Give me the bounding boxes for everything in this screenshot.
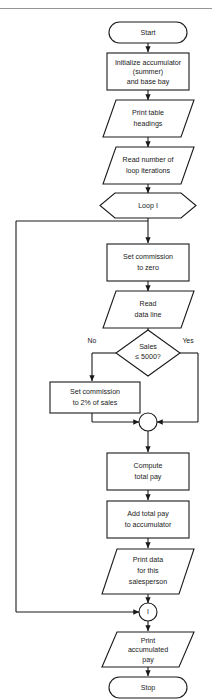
branch-label-no: No [88, 337, 97, 344]
node-loop-connector[interactable]: I [139, 603, 157, 621]
initialize-label-line3: and base bay [127, 78, 170, 86]
read-data-line-io-shape [103, 291, 194, 328]
flowchart-container: Start Initialize accumulator (summer) an… [0, 0, 212, 700]
print-data-label-line1: Print data [133, 556, 163, 564]
node-set-commission-zero[interactable]: Set commission to zero [107, 244, 189, 281]
add-total-pay-process-shape [107, 501, 189, 538]
start-label: Start [141, 29, 156, 37]
node-set-commission-2pct[interactable]: Set commission to 2% of sales [50, 382, 140, 413]
add-total-pay-label-line2: to accumulator [125, 521, 172, 529]
node-initialize[interactable]: Initialize accumulator (summer) and base… [107, 53, 189, 90]
node-print-accumulated[interactable]: Print accumulated pay [102, 632, 194, 667]
print-data-label-line3: salesperson [129, 578, 167, 586]
stop-label: Stop [141, 684, 156, 692]
node-compute-total-pay[interactable]: Compute total pay [107, 453, 189, 490]
loop-i-label: Loop I [138, 202, 158, 210]
set-commission-zero-label-line2: to zero [137, 264, 159, 272]
loop-connector-label: I [147, 608, 149, 616]
print-accumulated-label-line2: accumulated [128, 646, 168, 654]
node-sales-decision[interactable]: Sales ≤ 5000? [116, 330, 180, 376]
node-read-iterations[interactable]: Read number of loop iterations [103, 147, 194, 184]
read-iterations-io-shape [103, 147, 194, 184]
set-commission-2pct-process-shape [50, 382, 140, 413]
set-commission-zero-label-line1: Set commission [123, 253, 173, 261]
print-headings-label-line1: Print table [132, 109, 164, 117]
compute-total-pay-label-line1: Compute [134, 462, 163, 470]
read-iterations-label-line2: loop iterations [126, 167, 171, 175]
node-add-total-pay[interactable]: Add total pay to accumulator [107, 501, 189, 538]
print-accumulated-label-line3: pay [142, 656, 154, 664]
node-loop-i[interactable]: Loop I [100, 193, 196, 218]
sales-decision-label-line1: Sales [139, 343, 157, 351]
set-commission-zero-process-shape [107, 244, 189, 281]
initialize-label-line1: Initialize accumulator [115, 59, 182, 67]
node-print-data[interactable]: Print data for this salesperson [102, 549, 194, 594]
node-merge-junction[interactable] [139, 413, 157, 431]
initialize-label-line2: (summer) [133, 68, 163, 76]
sales-decision-label-line2: ≤ 5000? [135, 353, 161, 361]
add-total-pay-label-line1: Add total pay [127, 510, 169, 518]
node-start[interactable]: Start [109, 22, 187, 43]
node-stop[interactable]: Stop [109, 677, 187, 698]
set-commission-2pct-label-line2: to 2% of sales [73, 399, 118, 407]
branch-label-yes: Yes [182, 337, 194, 344]
set-commission-2pct-label-line1: Set commission [70, 388, 120, 396]
print-headings-label-line2: headings [134, 120, 163, 128]
node-read-data-line[interactable]: Read data line [103, 291, 194, 328]
print-headings-io-shape [103, 100, 194, 137]
read-data-line-label-line1: Read [140, 300, 157, 308]
flowchart-svg: Start Initialize accumulator (summer) an… [0, 0, 212, 700]
print-accumulated-label-line1: Print [141, 637, 156, 645]
read-iterations-label-line1: Read number of [123, 156, 174, 164]
compute-total-pay-label-line2: total pay [135, 473, 162, 481]
node-print-headings[interactable]: Print table headings [103, 100, 194, 137]
read-data-line-label-line2: data line [135, 311, 162, 319]
print-data-label-line2: for this [137, 567, 159, 575]
compute-total-pay-process-shape [107, 453, 189, 490]
merge-junction-circle-shape [139, 413, 157, 431]
